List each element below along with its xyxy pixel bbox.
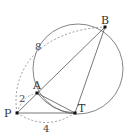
circle [33,24,123,114]
label-A: A [32,79,42,92]
length-PA: 2 [19,93,25,104]
length-PB: 8 [35,41,41,52]
point-P [16,112,19,115]
dashed-PT [17,113,75,123]
point-T [74,112,77,115]
segment-AT [37,93,75,113]
label-T: T [78,102,86,115]
length-PT: 4 [43,123,49,134]
label-P: P [4,107,12,120]
segment-PB [17,27,105,113]
segment-BT [75,27,105,113]
geometry-diagram: P A T B 2 8 4 [0,0,131,138]
label-B: B [101,14,109,27]
